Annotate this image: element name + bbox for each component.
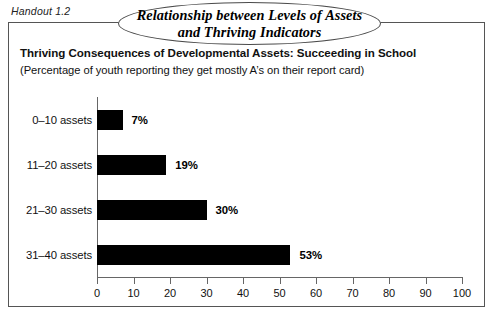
x-axis-tick-label-50: 50 xyxy=(273,287,285,299)
x-axis-tick-label-40: 40 xyxy=(237,287,249,299)
bar-value-label-3: 30% xyxy=(216,204,239,216)
bar-1 xyxy=(97,110,123,130)
x-axis-tick-label-90: 90 xyxy=(419,287,431,299)
x-axis-tick-50 xyxy=(280,278,281,284)
x-axis-tick-label-0: 0 xyxy=(94,287,100,299)
bar-4 xyxy=(97,245,290,265)
x-axis-tick-30 xyxy=(207,278,208,284)
x-axis-tick-60 xyxy=(316,278,317,284)
x-axis-tick-label-10: 10 xyxy=(127,287,139,299)
x-axis-tick-label-80: 80 xyxy=(383,287,395,299)
category-label-2: 11–20 assets xyxy=(27,159,92,171)
figure-title-line-1: Relationship between Levels of Assets xyxy=(137,7,363,24)
x-axis-tick-label-70: 70 xyxy=(346,287,358,299)
x-axis-tick-10 xyxy=(134,278,135,284)
figure-title-oval: Relationship between Levels of Assets an… xyxy=(118,2,381,45)
figure-title-line-2: and Thriving Indicators xyxy=(137,24,363,41)
figure-title-text: Relationship between Levels of Assets an… xyxy=(125,7,375,40)
x-axis-tick-label-20: 20 xyxy=(164,287,176,299)
category-label-3: 21–30 assets xyxy=(26,204,92,216)
bar-chart-plot-area: 0–10 assets7%11–20 assets19%21–30 assets… xyxy=(0,0,493,319)
x-axis-tick-100 xyxy=(462,278,463,284)
bar-2 xyxy=(97,155,166,175)
x-axis-tick-0 xyxy=(97,278,98,284)
x-axis-tick-90 xyxy=(426,278,427,284)
x-axis-tick-label-30: 30 xyxy=(200,287,212,299)
x-axis-tick-label-60: 60 xyxy=(310,287,322,299)
x-axis-tick-20 xyxy=(170,278,171,284)
x-axis-tick-40 xyxy=(243,278,244,284)
bar-value-label-1: 7% xyxy=(132,114,148,126)
bar-value-label-4: 53% xyxy=(299,249,322,261)
x-axis-tick-label-100: 100 xyxy=(453,287,471,299)
bar-3 xyxy=(97,200,207,220)
bar-value-label-2: 19% xyxy=(175,159,198,171)
x-axis-tick-70 xyxy=(353,278,354,284)
category-label-1: 0–10 assets xyxy=(32,114,92,126)
category-label-4: 31–40 assets xyxy=(26,249,92,261)
x-axis-tick-80 xyxy=(389,278,390,284)
